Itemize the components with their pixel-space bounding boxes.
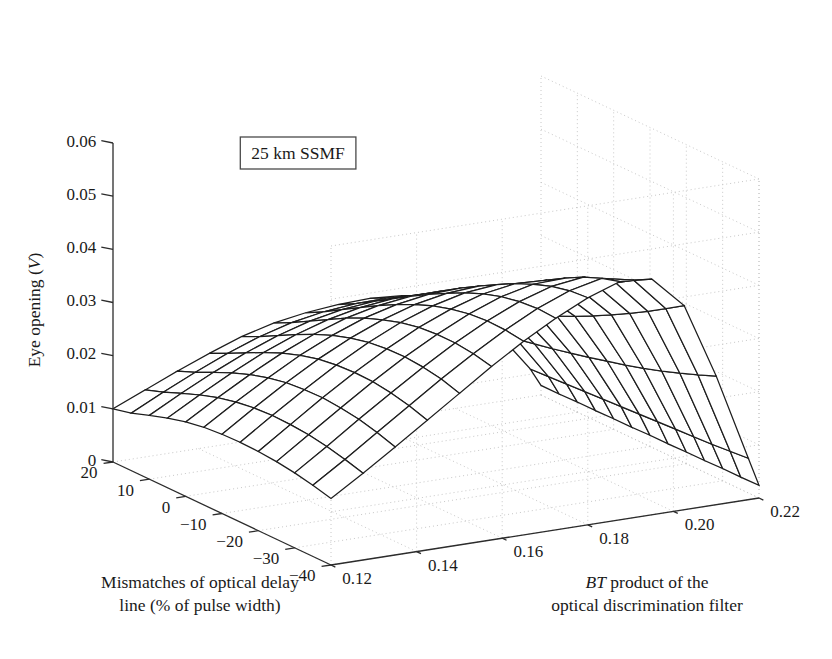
x-tick-label-3: −10 [180,515,207,534]
z-tick-label-5: 0.01 [67,398,97,417]
x-tick-label-5: −30 [253,549,280,568]
x-axis-title-line1: Mismatches of optical delay [101,572,299,592]
z-tick-label-1: 0.05 [67,185,97,204]
x-tick-label-2: 0 [162,498,171,517]
eye-opening-surface-figure: 0.060.050.040.030.020.01020100−10−20−30−… [0,0,832,659]
y-axis-title-line2: optical discrimination filter [551,595,743,615]
y-tick-label-4: 0.20 [685,515,715,534]
z-tick-label-2: 0.04 [67,238,97,257]
x-tick-label-1: 10 [117,481,134,500]
svg-text:Eye opening (V): Eye opening (V) [24,252,44,367]
svg-text:BT product of the: BT product of the [586,572,709,592]
z-tick-label-0: 0.06 [67,132,97,151]
y-tick-label-1: 0.14 [428,556,458,575]
z-tick-label-3: 0.03 [67,291,97,310]
z-axis-title: Eye opening (V) [24,252,44,367]
annotation-25km-ssmf: 25 km SSMF [240,137,356,169]
y-tick-label-5: 0.22 [770,502,800,521]
z-axis-title-main: Eye opening ( [24,269,44,367]
x-tick-label-4: −20 [216,532,243,551]
x-tick-label-0: 20 [81,463,98,482]
y-tick-label-2: 0.16 [514,542,544,561]
y-tick-label-0: 0.12 [342,569,372,588]
z-tick-label-4: 0.02 [67,344,97,363]
z-axis-title-suffix: ) [24,252,44,258]
annotation-label: 25 km SSMF [251,143,345,163]
y-axis-title-bt: BT [586,572,608,592]
x-axis-title-line2: line (% of pulse width) [119,595,281,615]
y-tick-label-3: 0.18 [599,529,629,548]
y-axis-title-rest: product of the [606,572,709,592]
